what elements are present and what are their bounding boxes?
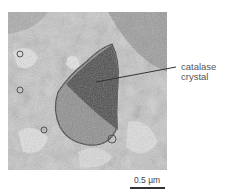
label-line-2: crystal (181, 72, 216, 82)
scale-bar-label: 0.5 µm (134, 175, 160, 185)
catalase-crystal-label: catalase crystal (181, 62, 216, 82)
micrograph-image (8, 12, 167, 170)
scale-bar (130, 187, 165, 189)
